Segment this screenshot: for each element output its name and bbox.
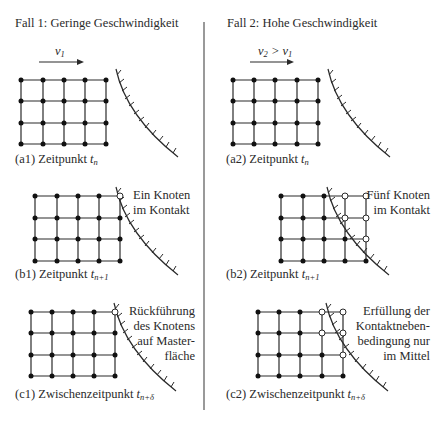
annotation-b2: Fünf Knoten im Kontakt [360, 188, 430, 218]
panel-a2-master-surface [328, 69, 390, 157]
annotation-line: Ein Knoten [133, 188, 190, 203]
annotation-line: Rückführung [120, 304, 195, 319]
panel-b2-mesh [279, 194, 369, 264]
panel-a1-mesh [19, 78, 109, 147]
caption-text: (c2) Zwischenzeitpunkt [226, 387, 347, 401]
annotation-line: im Kontakt [133, 203, 190, 218]
column-1-title: Fall 1: Geringe Geschwindigkeit [15, 16, 179, 31]
annotation-line: Fünf Knoten [360, 188, 430, 203]
panel-c2-mesh [256, 310, 346, 379]
panel-c1-contact-node [112, 309, 118, 315]
velocity-relation-subscript: 1 [288, 49, 292, 59]
panel-b1-mesh [33, 194, 123, 264]
velocity-label-1: v1 [55, 44, 65, 60]
velocity-subscript: 1 [61, 49, 65, 59]
caption-text: (b2) Zeitpunkt [226, 267, 302, 281]
annotation-b1: Ein Knoten im Kontakt [133, 188, 190, 218]
annotation-line: Kontaktneben- [348, 319, 430, 334]
annotation-line: Erfüllung der [348, 304, 430, 319]
caption-c2: (c2) Zwischenzeitpunkt tn+δ [226, 387, 365, 403]
panel-b1-contact-node [117, 193, 123, 199]
panel-a1-master-surface [116, 69, 178, 157]
velocity-label-2: v2 > v1 [258, 44, 292, 60]
caption-sub: n [304, 157, 308, 167]
column-2-title: Fall 2: Hohe Geschwindigkeit [227, 16, 377, 31]
caption-b2: (b2) Zeitpunkt tn+1 [226, 267, 319, 283]
annotation-line: des Knotens [120, 319, 195, 334]
caption-a2: (a2) Zeitpunkt tn [226, 152, 309, 168]
caption-sub: n+δ [140, 392, 154, 402]
caption-sub: n [93, 157, 97, 167]
annotation-c1: Rückführung des Knotens auf Master- fläc… [120, 304, 195, 364]
caption-sub: n+1 [94, 272, 108, 282]
velocity-symbol: v [258, 44, 264, 58]
annotation-line: auf Master- [120, 334, 195, 349]
velocity-relation: > v [268, 44, 288, 58]
velocity-subscript: 2 [264, 49, 268, 59]
caption-text: (a2) Zeitpunkt [226, 152, 301, 166]
annotation-c2: Erfüllung der Kontaktneben- bedingung nu… [348, 304, 430, 364]
caption-a1: (a1) Zeitpunkt tn [15, 152, 98, 168]
annotation-line: im Mittel [348, 349, 430, 364]
panel-c1-mesh [29, 310, 118, 379]
velocity-symbol: v [55, 44, 61, 58]
caption-c1: (c1) Zwischenzeitpunkt tn+δ [15, 387, 154, 403]
caption-sub: n+1 [305, 272, 319, 282]
caption-b1: (b1) Zeitpunkt tn+1 [15, 267, 108, 283]
annotation-line: fläche [120, 349, 195, 364]
caption-text: (c1) Zwischenzeitpunkt [15, 387, 136, 401]
caption-sub: n+δ [351, 392, 365, 402]
panel-a2-mesh [231, 78, 321, 147]
caption-text: (b1) Zeitpunkt [15, 267, 91, 281]
annotation-line: bedingung nur [348, 334, 430, 349]
annotation-line: im Kontakt [360, 203, 430, 218]
caption-text: (a1) Zeitpunkt [15, 152, 90, 166]
